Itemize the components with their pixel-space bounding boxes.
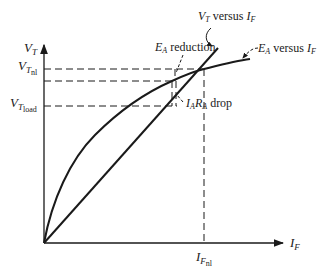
ea-reduction-annotation: EA reduction xyxy=(154,40,216,55)
diagram-svg: VT IF VTnl VTload IFnl VT versus IF EA v… xyxy=(0,0,325,271)
diagram-canvas: VT IF VTnl VTload IFnl VT versus IF EA v… xyxy=(0,0,325,271)
y-axis-label: VT xyxy=(24,40,38,57)
vt-line xyxy=(44,48,218,243)
ea-reduction-leader xyxy=(176,55,183,73)
if-nl-label: IFnl xyxy=(195,249,213,268)
ea-curve xyxy=(44,59,250,243)
vt-curve-annotation: VT versus IF xyxy=(198,9,255,24)
iara-drop-annotation: IARA drop xyxy=(185,96,232,111)
vt-nl-label: VTnl xyxy=(18,58,38,77)
ea-leader xyxy=(243,48,258,58)
iara-leader xyxy=(177,95,183,102)
ea-curve-annotation: EA versus IF xyxy=(257,41,316,56)
x-axis-label: IF xyxy=(289,235,300,252)
vt-load-label: VTload xyxy=(10,95,37,114)
